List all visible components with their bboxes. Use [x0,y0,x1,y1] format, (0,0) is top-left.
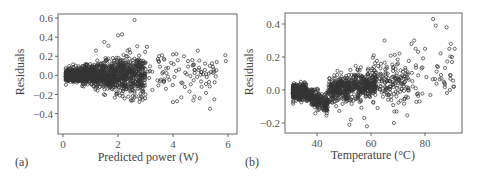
y-tick-label: −0.4 [33,108,53,120]
y-tick-label: 0.2 [266,51,280,63]
data-point [116,34,119,37]
data-point [113,96,116,99]
x-tick-label: 4 [170,138,176,150]
data-point [224,54,227,57]
data-point [436,65,439,68]
data-point [170,61,173,64]
data-point [204,82,207,85]
data-point [137,54,140,57]
data-point [377,64,380,67]
x-tick-label: 2 [115,138,121,150]
data-point [414,47,417,50]
data-point [421,92,424,95]
x-axis-label-a: Predicted power (W) [98,150,199,164]
panel-b-residuals-vs-temperature: −0.20.00.20.4 406080 Residuals Temperatu… [242,13,462,169]
data-point [394,90,397,93]
data-point [167,66,170,69]
data-point [449,77,452,80]
data-point [417,50,420,53]
data-point [107,44,110,47]
data-point [189,74,192,77]
data-point [432,17,435,20]
data-point [381,95,384,98]
data-point [435,70,438,73]
data-point [208,80,211,83]
data-point [133,18,136,21]
data-point [434,24,437,27]
data-point [191,59,194,62]
data-point [411,80,414,83]
data-point [145,45,148,48]
panel-label-a: (a) [15,155,28,169]
data-point [393,53,396,56]
data-point [198,59,201,62]
data-point [341,102,344,105]
data-point [359,66,362,69]
data-point [173,75,176,78]
y-tick-label: 0.0 [266,84,280,96]
data-point [144,93,147,96]
data-point [64,83,67,86]
data-point [203,62,206,65]
data-point [200,80,203,83]
data-point [160,54,163,57]
data-point [183,85,186,88]
data-point [349,118,352,121]
data-point [404,66,407,69]
data-point [448,47,451,50]
data-point [165,72,168,75]
data-point [445,91,448,94]
data-point [168,78,171,81]
data-point [128,57,131,60]
data-point [171,84,174,87]
data-point [196,75,199,78]
data-point [410,42,413,45]
data-point [176,100,179,103]
y-tick-label: −0.2 [260,117,280,129]
data-point [340,71,343,74]
data-point [453,47,456,50]
data-point [123,97,126,100]
data-point [399,99,402,102]
data-point [336,69,339,72]
data-point [175,52,178,55]
data-point [414,87,417,90]
data-point [211,62,214,65]
data-point [200,85,203,88]
x-tick-label: 0 [60,138,66,150]
data-point [411,85,414,88]
data-point [176,59,179,62]
data-point [127,95,130,98]
x-axis-label-b: Temperature (°C) [331,148,415,162]
data-point [187,65,190,68]
data-point [204,91,207,94]
data-point [111,57,114,60]
y-axis-ticks-a: −0.4−0.20.00.20.40.6 [33,12,58,120]
data-point [186,60,189,63]
data-point [138,100,141,103]
data-point [354,64,357,67]
data-point [365,125,368,128]
data-point [396,58,399,61]
data-point [349,68,352,71]
data-point [392,92,395,95]
x-tick-label: 40 [312,137,324,149]
data-point [121,33,124,36]
data-point [413,39,416,42]
data-point [180,96,183,99]
data-point [171,53,174,56]
data-point [363,116,366,119]
data-point [151,88,154,91]
data-point [383,61,386,64]
data-point [446,60,449,63]
data-point [348,123,351,126]
data-point [395,95,398,98]
x-axis-ticks-b: 406080 [312,133,432,149]
y-tick-label: 0.0 [39,69,53,81]
data-point [376,106,379,109]
data-point [423,47,426,50]
panel-a-residuals-vs-predicted-power: −0.4−0.20.00.20.40.6 0246 Residuals Pred… [13,12,237,169]
data-point [193,95,196,98]
y-axis-label-b: Residuals [242,48,256,95]
data-point [379,62,382,65]
